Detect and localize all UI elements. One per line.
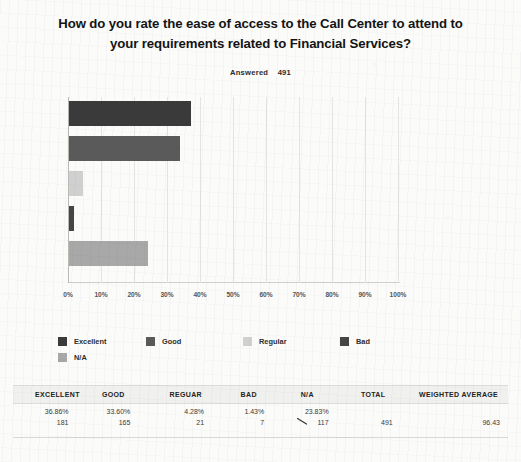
- x-tick-label: 90%: [358, 291, 371, 298]
- chart-gridline: [266, 97, 267, 283]
- cell-good-count: 165: [81, 418, 131, 429]
- bar-n-a: [69, 241, 148, 266]
- chart-gridline: [365, 97, 366, 283]
- cell-total: 491: [349, 407, 407, 437]
- legend-swatch-icon: [58, 353, 67, 362]
- x-tick-label: 30%: [160, 291, 173, 298]
- x-tick-label: 100%: [390, 291, 407, 298]
- x-tick-label: 40%: [193, 291, 206, 298]
- cell-excellent: 36.86% 181: [13, 407, 81, 437]
- chart-legend: ExcellentGoodRegularBadN/A: [58, 333, 478, 365]
- table-header-row: EXCELLENT GOOD REGUAR BAD N/A TOTAL WEIG…: [13, 385, 508, 404]
- column-header-bad: BAD: [227, 391, 283, 398]
- legend-label: Good: [162, 337, 181, 346]
- chart-gridline: [200, 97, 201, 283]
- cell-bad-percent: 1.43%: [220, 407, 264, 418]
- cell-na-percent: 23.83%: [280, 407, 328, 418]
- x-tick-label: 80%: [325, 291, 338, 298]
- table-row: 36.86% 181 33.60% 165 4.28% 21 1.43% 7 2…: [13, 404, 508, 438]
- survey-question-card: How do you rate the ease of access to th…: [0, 0, 521, 462]
- cell-good-percent: 33.60%: [81, 407, 131, 418]
- summary-table: EXCELLENT GOOD REGUAR BAD N/A TOTAL WEIG…: [13, 385, 508, 438]
- chart-gridline: [233, 97, 234, 283]
- legend-row: ExcellentGoodRegularBad: [58, 333, 478, 349]
- title-block: How do you rate the ease of access to th…: [0, 0, 521, 77]
- column-header-excellent: EXCELLENT: [13, 391, 88, 398]
- column-header-weighted-average: WEIGHTED AVERAGE: [403, 391, 508, 398]
- legend-swatch-icon: [340, 337, 349, 346]
- column-header-regular: REGUAR: [150, 391, 227, 398]
- scan-pen-mark-icon: [297, 418, 308, 425]
- cell-excellent-percent: 36.86%: [13, 407, 69, 418]
- x-tick-label: 10%: [94, 291, 107, 298]
- legend-swatch-icon: [58, 337, 67, 346]
- cell-regular-count: 21: [144, 418, 204, 429]
- cell-regular-percent: 4.28%: [144, 407, 204, 418]
- bar-excellent: [69, 101, 191, 126]
- page-title: How do you rate the ease of access to th…: [44, 14, 477, 54]
- bar-bad: [69, 206, 74, 231]
- cell-regular: 4.28% 21: [144, 407, 220, 437]
- column-header-good: GOOD: [88, 391, 150, 398]
- cell-bad-count: 7: [220, 418, 264, 429]
- chart-gridline: [299, 97, 300, 283]
- legend-item-regular[interactable]: Regular: [243, 333, 340, 349]
- x-tick-label: 70%: [292, 291, 305, 298]
- y-axis-line: [68, 97, 69, 283]
- legend-item-good[interactable]: Good: [146, 333, 243, 349]
- cell-total-value: 491: [349, 418, 393, 429]
- legend-label: N/A: [74, 353, 87, 362]
- cell-excellent-count: 181: [13, 418, 69, 429]
- cell-na: 23.83% 117: [280, 407, 348, 437]
- x-tick-label: 50%: [226, 291, 239, 298]
- bar-chart: 0%10%20%30%40%50%60%70%80%90%100%: [0, 91, 521, 283]
- cell-bad: 1.43% 7: [220, 407, 280, 437]
- x-axis-line: [68, 282, 400, 283]
- answered-summary: Answered 491: [44, 68, 477, 77]
- column-header-na: N/A: [283, 391, 347, 398]
- x-tick-label: 0%: [63, 291, 73, 298]
- cell-good: 33.60% 165: [81, 407, 145, 437]
- legend-swatch-icon: [243, 337, 252, 346]
- cell-weighted-average: 96.43: [407, 407, 508, 437]
- cell-weighted-average-value: 96.43: [407, 418, 500, 429]
- legend-row: N/A: [58, 349, 478, 365]
- chart-gridline: [332, 97, 333, 283]
- x-tick-label: 60%: [259, 291, 272, 298]
- legend-label: Bad: [356, 337, 370, 346]
- legend-item-bad[interactable]: Bad: [340, 333, 410, 349]
- legend-item-n-a[interactable]: N/A: [58, 349, 146, 365]
- chart-plot-area: [68, 97, 398, 283]
- x-axis-tick-labels: 0%10%20%30%40%50%60%70%80%90%100%: [68, 291, 398, 305]
- answered-count: 491: [278, 68, 291, 77]
- bar-good: [69, 136, 180, 161]
- legend-label: Excellent: [74, 337, 106, 346]
- column-header-total: TOTAL: [347, 391, 403, 398]
- legend-swatch-icon: [146, 337, 155, 346]
- legend-label: Regular: [259, 337, 287, 346]
- x-tick-label: 20%: [127, 291, 140, 298]
- legend-item-excellent[interactable]: Excellent: [58, 333, 146, 349]
- bar-regular: [69, 171, 83, 196]
- answered-label: Answered: [230, 68, 268, 77]
- chart-gridline: [398, 97, 399, 283]
